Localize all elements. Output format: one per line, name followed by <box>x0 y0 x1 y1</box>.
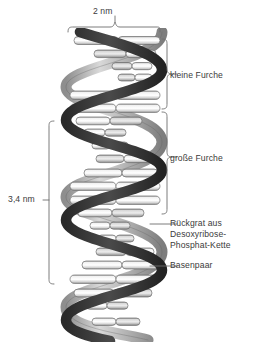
backbone-callout-label: Rückgrat aus Desoxyribose- Phosphat-Kett… <box>170 218 231 252</box>
width-label-2nm: 2 nm <box>93 6 113 17</box>
dna-diagram-canvas <box>0 0 257 354</box>
basepair-rung <box>78 209 144 217</box>
basepair-rung <box>76 117 142 125</box>
dna-helix <box>66 32 162 341</box>
dna-figure: 2 nm 3,4 nm kleine Furche große Furche R… <box>0 0 257 354</box>
major-groove-label: große Furche <box>170 153 223 164</box>
backbone-callout-line-1: Rückgrat aus <box>170 218 231 229</box>
basepair-rung <box>92 318 140 325</box>
basepair-rung <box>112 63 152 70</box>
minor-groove-label: kleine Furche <box>170 70 223 81</box>
basepair-rung <box>84 169 158 177</box>
backbone-callout-line-3: Phosphat-Kette <box>170 240 231 251</box>
pitch-label-34nm: 3,4 nm <box>8 194 35 205</box>
basepair-callout-label: Basenpaar <box>170 260 212 271</box>
pitch-bracket-34nm <box>43 121 54 284</box>
backbone-callout-line-2: Desoxyribose- <box>170 229 231 240</box>
